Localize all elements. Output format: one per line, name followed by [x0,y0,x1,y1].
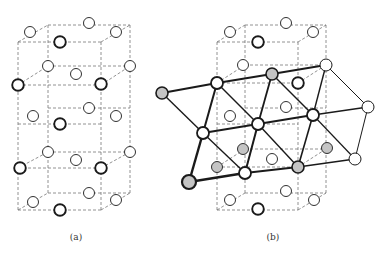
panel-a-lattice [12,18,135,216]
bond-line [326,65,368,107]
atom-thick [252,36,264,48]
atom-thin [225,27,236,38]
atom-thick [14,162,26,174]
atom-thin [84,188,95,199]
atom-thin [71,69,82,80]
bond-line [162,93,203,133]
atom-thin [25,27,36,38]
atom-lattice [239,167,251,179]
atom-gray [212,162,223,173]
panel-b-label: (b) [267,232,280,242]
atom-lattice-thin [362,101,374,113]
bond-line [217,83,258,124]
bond-line [245,167,298,173]
atom-thick [54,204,66,216]
atom-thin [28,111,39,122]
atom-thin [308,27,319,38]
bond-line [217,74,272,83]
atom-thin [28,197,39,208]
bond-line [258,115,313,124]
atom-gray-lattice [292,161,304,173]
atom-lattice-thin [320,59,332,71]
atom-thick [95,78,107,90]
atom-thin [238,60,249,71]
atom-thin [125,147,136,158]
atom-thin [309,195,320,206]
atom-lattice-thin [349,153,361,165]
atom-thick [12,79,24,91]
atom-thin [281,186,292,197]
bond-line [298,115,313,167]
bond-line [355,107,368,159]
bond-line [258,124,298,167]
atom-thin [111,27,122,38]
atom-thick [54,118,66,130]
atom-gray-lattice [156,87,168,99]
atom-gray-lattice [266,68,278,80]
atom-thick [54,36,66,48]
bond-line [162,83,217,93]
atom-gray-lattice-big [182,175,196,189]
atom-thin [281,18,292,29]
atom-lattice [197,127,209,139]
panel-a-label: (a) [70,232,82,242]
atom-thin [281,102,292,113]
atom-thin [111,111,122,122]
atom-lattice [252,118,264,130]
bond-line [313,115,355,159]
atom-thin [43,147,54,158]
bond-line [258,74,272,124]
crystal-lattice-diagram [0,0,381,253]
atom-thin [111,195,122,206]
atom-gray [322,143,333,154]
atom-thick [252,203,264,215]
panel-b-lattice [156,18,374,215]
atom-gray [238,144,249,155]
atom-thin [225,111,236,122]
atom-thin [84,18,95,29]
atom-thin [267,154,278,165]
atom-thin [71,155,82,166]
atom-thick [95,162,107,174]
atom-lattice [307,109,319,121]
atom-thin [84,103,95,114]
bond-line [203,124,258,133]
atom-thick [292,77,304,89]
atom-thin [125,61,136,72]
bond-line [298,159,355,167]
bond-line [203,83,217,133]
bond-line [313,65,326,115]
atom-thin [225,195,236,206]
bond-line [272,65,326,74]
atom-thin [43,61,54,72]
atom-lattice [211,77,223,89]
